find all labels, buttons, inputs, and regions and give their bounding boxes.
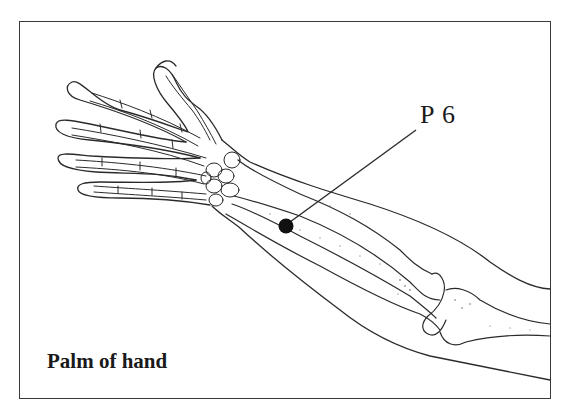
acupoint-label: P 6 xyxy=(420,100,456,130)
ulna-bone xyxy=(226,204,440,330)
acupoint-marker xyxy=(279,219,294,234)
bone-shading xyxy=(269,205,531,330)
finger-bones xyxy=(72,74,240,206)
elbow-humerus xyxy=(423,273,550,345)
leader-line xyxy=(290,130,416,222)
figure-caption: Palm of hand xyxy=(47,349,167,374)
hand-outline xyxy=(56,61,222,205)
radius-bone xyxy=(234,160,440,300)
